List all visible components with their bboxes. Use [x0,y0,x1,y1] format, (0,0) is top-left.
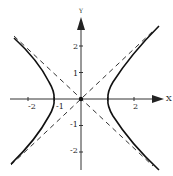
y-tick-label: -2 [70,147,78,155]
x-tick-label: 2 [133,103,138,111]
y-tick-label: 2 [73,43,78,51]
x-axis-label: X [166,95,172,103]
hyperbola-branches [11,26,159,170]
hyperbola-plot [0,0,173,176]
x-axis-arrow-icon [152,95,164,103]
origin-point [79,97,83,101]
y-axis-label: Y [79,8,83,14]
y-tick-label: 1 [73,70,78,78]
x-tick-label: -2 [28,103,36,111]
x-tick-label: -1 [56,103,64,111]
y-axis-arrow-icon [77,17,85,30]
y-axis [77,17,85,170]
y-tick-label: -1 [70,121,78,129]
